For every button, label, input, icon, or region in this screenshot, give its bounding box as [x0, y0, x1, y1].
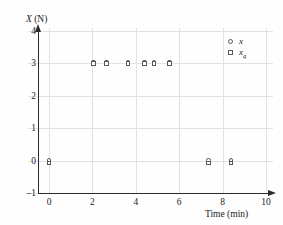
- square-marker-icon: [152, 61, 156, 65]
- square-marker-icon: [229, 161, 233, 165]
- x-axis-tick-label: 4: [123, 197, 149, 207]
- plot-area: 43210–10246810: [0, 0, 283, 225]
- x-axis-tick-label: 8: [210, 197, 236, 207]
- y-axis-tick: 2: [5, 91, 36, 101]
- grid-line-horizontal: [28, 96, 273, 97]
- x-axis-tick-label: 10: [253, 197, 279, 207]
- y-axis-line: [38, 31, 39, 193]
- y-axis-tick: 3: [5, 58, 36, 68]
- legend-item-label: x: [239, 36, 243, 47]
- grid-line-horizontal: [28, 31, 273, 32]
- x-axis-tick-label: 6: [166, 197, 192, 207]
- square-marker-icon: [228, 50, 233, 55]
- legend-item: xq: [228, 47, 280, 58]
- y-axis-tick-label: 4: [10, 26, 36, 36]
- square-marker-icon: [206, 161, 210, 165]
- y-axis-tick-label: 1: [10, 123, 36, 133]
- y-axis-label: X (N): [26, 14, 47, 25]
- x-axis-tick-label: 2: [79, 197, 105, 207]
- figure-caption: [0, 214, 283, 225]
- y-axis-arrowhead: [35, 24, 41, 32]
- y-axis-tick-label: –1: [10, 188, 36, 198]
- grid-line-vertical: [49, 28, 50, 194]
- y-axis-tick-label: 2: [10, 91, 36, 101]
- y-axis-tick: –1: [5, 188, 36, 198]
- y-axis-label-unit: (N): [32, 14, 48, 24]
- grid-line-vertical: [223, 28, 224, 194]
- legend: x xq: [228, 36, 280, 58]
- y-axis-tick: 0: [5, 156, 36, 166]
- y-axis-tick: 1: [5, 123, 36, 133]
- y-axis-tick: 4: [5, 26, 36, 36]
- circle-marker-icon: [228, 39, 233, 44]
- square-marker-icon: [91, 61, 95, 65]
- square-marker-icon: [142, 61, 146, 65]
- grid-line-horizontal: [28, 128, 273, 129]
- legend-item: x: [228, 36, 280, 47]
- scatter-plot-figure: 43210–10246810 X (N) Time (min) x xq: [0, 0, 283, 225]
- square-marker-icon: [126, 61, 130, 65]
- x-axis-arrowhead: [268, 190, 276, 196]
- square-marker-icon: [167, 61, 171, 65]
- grid-line-horizontal: [28, 161, 273, 162]
- square-marker-icon: [47, 161, 51, 165]
- legend-item-label: xq: [239, 47, 246, 61]
- grid-line-vertical: [136, 28, 137, 194]
- grid-line-vertical: [179, 28, 180, 194]
- y-axis-tick-label: 0: [10, 156, 36, 166]
- grid-line-horizontal: [28, 63, 273, 64]
- square-marker-icon: [104, 61, 108, 65]
- x-axis-line: [38, 193, 271, 194]
- y-axis-tick-label: 3: [10, 58, 36, 68]
- x-axis-tick-label: 0: [36, 197, 62, 207]
- grid-line-vertical: [92, 28, 93, 194]
